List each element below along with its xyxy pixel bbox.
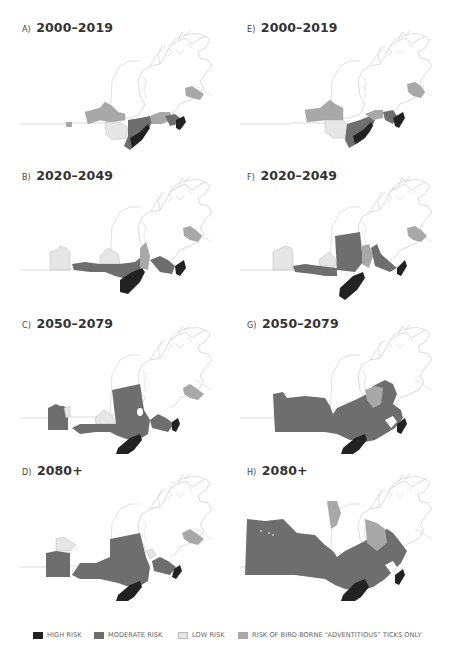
canada-map xyxy=(225,324,445,454)
map-panel-c: C) 2050–2079 xyxy=(0,310,220,460)
swatch-moderate-risk xyxy=(94,632,104,639)
map-panel-a: A) 2000–2019 xyxy=(0,0,220,150)
legend-label: MODERATE RISK xyxy=(108,631,162,639)
legend-item-high-risk: HIGH RISK xyxy=(33,631,82,639)
legend-item-adventitious: RISK OF BIRD-BORNE “ADVENTITIOUS” TICKS … xyxy=(238,631,422,639)
canada-map xyxy=(0,324,220,454)
legend-item-low-risk: LOW RISK xyxy=(178,631,225,639)
swatch-low-risk xyxy=(178,632,188,639)
canada-map xyxy=(0,471,220,601)
map-panel-d: D) 2080+ xyxy=(0,455,220,605)
map-panel-g: G) 2050–2079 xyxy=(225,310,445,460)
canada-map xyxy=(0,176,220,306)
legend: HIGH RISK MODERATE RISK LOW RISK RISK OF… xyxy=(0,627,451,647)
map-panel-e: E) 2000–2019 xyxy=(225,0,445,150)
map-panel-h: H) 2080+ xyxy=(225,455,445,605)
map-panel-b: B) 2020–2049 xyxy=(0,160,220,310)
canada-map xyxy=(225,471,445,601)
swatch-adventitious xyxy=(238,632,248,639)
canada-map xyxy=(225,176,445,306)
map-panel-f: F) 2020–2049 xyxy=(225,160,445,310)
legend-label: HIGH RISK xyxy=(47,631,82,639)
legend-item-moderate-risk: MODERATE RISK xyxy=(94,631,162,639)
legend-label: RISK OF BIRD-BORNE “ADVENTITIOUS” TICKS … xyxy=(252,631,422,639)
canada-map xyxy=(225,28,445,158)
legend-label: LOW RISK xyxy=(192,631,225,639)
canada-map xyxy=(0,28,220,158)
swatch-high-risk xyxy=(33,632,43,639)
